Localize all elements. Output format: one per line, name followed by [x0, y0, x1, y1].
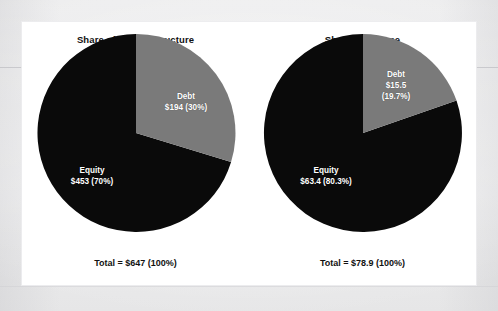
pie-svg-capital-structure: [36, 33, 236, 233]
pie-label-equity-left-name: Equity: [46, 165, 138, 176]
pie-label-equity-right: Equity $63.4 (80.3%): [271, 165, 381, 187]
chart-total-income: Total = $78.9 (100%): [249, 258, 476, 268]
pie-label-equity-right-name: Equity: [271, 165, 381, 176]
chart-card: Share of capital structure Debt $194 (30…: [22, 22, 476, 285]
pie-label-debt-right-percent: (19.7%): [357, 91, 435, 102]
pie-label-debt-right-value: $15.5: [357, 80, 435, 91]
pie-graphic-wrapper-right: Debt $15.5 (19.7%) Equity $63.4 (80.3%): [249, 33, 476, 233]
slide-frame: Share of capital structure Debt $194 (30…: [0, 0, 498, 311]
pie-label-equity-left: Equity $453 (70%): [46, 165, 138, 187]
pie-chart-income: Share of income Debt $15.5 (19.7%) Equit…: [249, 22, 476, 285]
pie-label-equity-right-value: $63.4 (80.3%): [271, 176, 381, 187]
scan-seam-line-lower: [0, 286, 498, 287]
pie-label-debt-left-name: Debt: [140, 91, 232, 102]
pie-label-debt-right: Debt $15.5 (19.7%): [357, 69, 435, 102]
pie-label-debt-right-name: Debt: [357, 69, 435, 80]
chart-total-capital-structure: Total = $647 (100%): [22, 258, 249, 268]
pie-label-debt-left: Debt $194 (30%): [140, 91, 232, 113]
pie-graphic-wrapper-left: Debt $194 (30%) Equity $453 (70%): [22, 33, 249, 233]
pie-svg-income: [263, 33, 463, 233]
pie-label-debt-left-value: $194 (30%): [140, 102, 232, 113]
pie-label-equity-left-value: $453 (70%): [46, 176, 138, 187]
pie-chart-capital-structure: Share of capital structure Debt $194 (30…: [22, 22, 249, 285]
